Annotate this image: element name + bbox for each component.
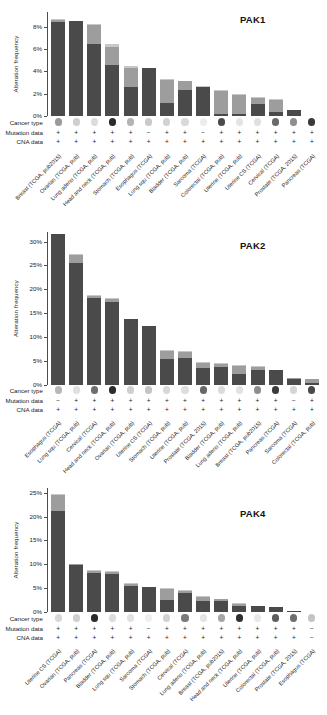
bar[interactable] [214,232,228,385]
bar[interactable] [69,12,83,116]
bar[interactable] [196,12,210,116]
mutation-data-sign: + [88,625,100,632]
bar[interactable] [269,12,283,116]
cancer-type-dot [272,118,279,125]
bar[interactable] [251,232,265,385]
bar[interactable] [305,12,319,116]
bar[interactable] [251,12,265,116]
cna-data-sign: + [179,634,191,641]
y-tick [44,517,47,518]
bar-segment [232,114,246,116]
mutation-data-sign: + [233,397,245,404]
cancer-type-dot [290,118,297,125]
bar[interactable] [124,12,138,116]
bar-segment [69,21,83,116]
cancer-type-dot [145,118,152,125]
bar[interactable] [305,488,319,612]
bar[interactable] [232,232,246,385]
cna-data-row-label: CNA data [0,406,43,413]
cna-data-sign: + [179,138,191,145]
bar[interactable] [105,488,119,612]
mutation-data-sign: + [52,129,64,136]
bar[interactable] [269,488,283,612]
mutation-data-sign: + [233,129,245,136]
mutation-data-sign: + [161,397,173,404]
bar[interactable] [178,12,192,116]
figure-root: PAK1Alteration frequency0%2%4%6%8%Cancer… [0,0,327,715]
bar[interactable] [160,12,174,116]
cancer-type-dot [127,614,134,621]
bar[interactable] [105,232,119,385]
cancer-type-dot [181,118,188,125]
bar[interactable] [287,488,301,612]
bar[interactable] [196,232,210,385]
mutation-data-sign: + [233,625,245,632]
bar[interactable] [87,12,101,116]
bar[interactable] [178,488,192,612]
bar-segment [87,44,101,116]
mutation-data-row-label: Mutation data [0,129,43,136]
bar[interactable] [287,12,301,116]
y-tick [44,289,47,290]
cancer-type-dot [218,386,225,393]
cna-data-sign: + [233,406,245,413]
bar-segment [214,114,228,116]
bar-segment [178,358,192,385]
mutation-data-sign: + [179,397,191,404]
cancer-type-dot [127,118,134,125]
cna-data-sign: + [143,138,155,145]
bar[interactable] [69,488,83,612]
bar[interactable] [214,12,228,116]
bar[interactable] [232,12,246,116]
cancer-type-dot [218,614,225,621]
bar[interactable] [142,232,156,385]
bar[interactable] [124,488,138,612]
bar-segment [142,326,156,385]
bar-segment [124,68,138,87]
y-tick-label: 15% [15,309,42,316]
mutation-data-sign: + [107,129,119,136]
bar-segment [269,370,283,385]
bar[interactable] [51,488,65,612]
cna-data-sign: + [161,634,173,641]
y-tick-label: 5% [15,584,42,591]
bar-segment [305,383,319,385]
y-tick [44,94,47,95]
bar[interactable] [51,12,65,116]
bar[interactable] [214,488,228,612]
cna-data-sign: + [215,406,227,413]
bar[interactable] [87,232,101,385]
bar[interactable] [160,232,174,385]
bar[interactable] [160,488,174,612]
mutation-data-sign: + [70,129,82,136]
bar[interactable] [69,232,83,385]
bar[interactable] [87,488,101,612]
mutation-data-sign: + [215,625,227,632]
bar[interactable] [269,232,283,385]
y-tick-label: 5% [15,357,42,364]
y-tick-label: 20% [15,285,42,292]
cancer-type-dot [308,386,315,393]
cancer-type-dot [290,614,297,621]
bar[interactable] [196,488,210,612]
mutation-data-sign: − [143,129,155,136]
bar[interactable] [251,488,265,612]
bar[interactable] [142,12,156,116]
cna-data-sign: + [70,406,82,413]
bar[interactable] [142,488,156,612]
bar[interactable] [124,232,138,385]
bar-segment [232,95,246,114]
bar[interactable] [105,12,119,116]
bar[interactable] [232,488,246,612]
bar[interactable] [287,232,301,385]
bar[interactable] [178,232,192,385]
bar-segment [87,298,101,385]
y-tick-label: 10% [15,333,42,340]
bar[interactable] [305,232,319,385]
cancer-type-dot [236,118,243,125]
cancer-type-row-label: Cancer type [0,119,43,126]
y-tick [44,313,47,314]
y-tick-label: 8% [15,23,42,30]
bar-segment [124,586,138,612]
bar[interactable] [51,232,65,385]
